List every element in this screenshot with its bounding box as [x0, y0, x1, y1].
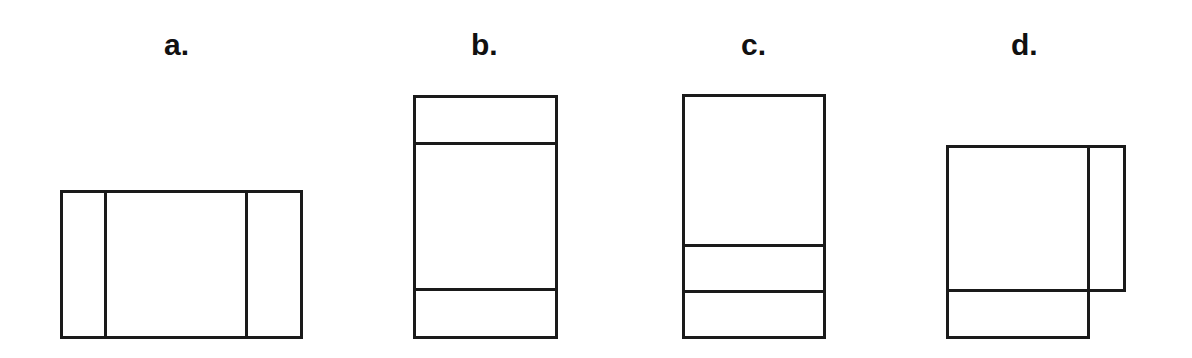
shape-d-side-outline [1088, 146, 1124, 290]
panel-label-c: c. [741, 30, 766, 60]
shape-b-outline [414, 96, 556, 337]
shape-a-outline [61, 191, 301, 337]
shape-d [947, 146, 1124, 337]
shape-d-main-outline [947, 146, 1088, 337]
shape-b [414, 96, 556, 337]
panel-label-a: a. [164, 30, 189, 60]
shape-c-outline [683, 95, 824, 337]
panel-label-b: b. [471, 30, 498, 60]
shape-c [683, 95, 824, 337]
shape-a [61, 191, 301, 337]
panel-label-d: d. [1011, 30, 1038, 60]
figure-canvas: a. b. c. d. [0, 0, 1192, 358]
